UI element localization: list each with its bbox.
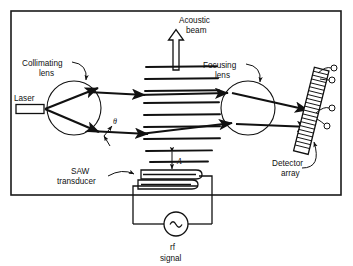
- acoustic-wavefronts: [144, 66, 220, 162]
- acoustic-beam-label-line2: beam: [186, 26, 207, 35]
- bragg-angle-indicator: [104, 126, 112, 146]
- focusing-lens: [221, 81, 275, 135]
- focusing-lens-label-line2: lens: [215, 71, 230, 80]
- collimating-lens-pointer: [72, 62, 86, 80]
- acoustic-beam-arrow: [169, 30, 184, 71]
- laser-label: Laser: [14, 94, 35, 103]
- detector-array-label-line2: array: [281, 169, 301, 178]
- detector-array: [294, 67, 329, 154]
- collimating-lens-label-line1: Collimating: [22, 59, 63, 68]
- saw-transducer-label-line1: SAW: [71, 167, 90, 176]
- detector-array-label-line1: Detector: [272, 159, 303, 168]
- rf-source: [164, 212, 188, 236]
- theta-label: θ: [113, 117, 117, 126]
- ray-paths-collimated: [88, 92, 148, 134]
- saw-transducer-label-line2: transducer: [57, 177, 96, 186]
- saw-transducer-pointer: [108, 171, 134, 176]
- collimating-lens-label-line2: lens: [39, 69, 54, 78]
- figure-canvas: Acoustic beam Λ Laser: [0, 0, 353, 266]
- rf-signal-label-line1: rf: [170, 243, 176, 252]
- rf-signal-label-line2: signal: [160, 254, 182, 263]
- focusing-lens-pointer: [246, 64, 260, 82]
- laser-source-box: [16, 105, 44, 114]
- lambda-label: Λ: [176, 157, 182, 166]
- focusing-lens-label-line1: Focusing: [203, 61, 237, 70]
- acoustic-beam-label-line1: Acoustic: [179, 16, 210, 25]
- acousto-optic-diagram: Acoustic beam Λ Laser: [0, 0, 353, 266]
